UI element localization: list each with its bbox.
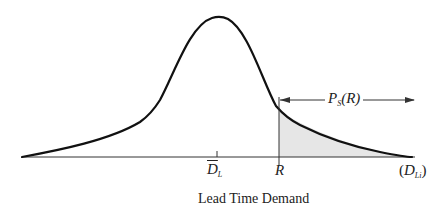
arrowhead-right-icon <box>405 97 415 103</box>
variable-label-base: D <box>404 162 415 178</box>
paren-close: ) <box>422 162 427 178</box>
variable-label-sub: Li <box>415 171 422 180</box>
mean-label-sub: L <box>218 170 222 179</box>
stockout-probability-label: PS(R) <box>325 90 363 108</box>
density-curve <box>22 17 412 157</box>
variable-label: (DLi) <box>399 162 427 180</box>
reorder-point-label: R <box>275 162 284 179</box>
arrowhead-left-icon <box>280 97 290 103</box>
distribution-diagram <box>0 0 444 216</box>
axis-title: Lead Time Demand <box>198 191 309 207</box>
ps-base: P <box>328 90 337 106</box>
mean-label-base: D <box>207 161 218 177</box>
mean-label: DL <box>207 161 222 179</box>
stockout-shaded-region <box>279 111 412 157</box>
ps-arg: (R) <box>341 90 360 106</box>
